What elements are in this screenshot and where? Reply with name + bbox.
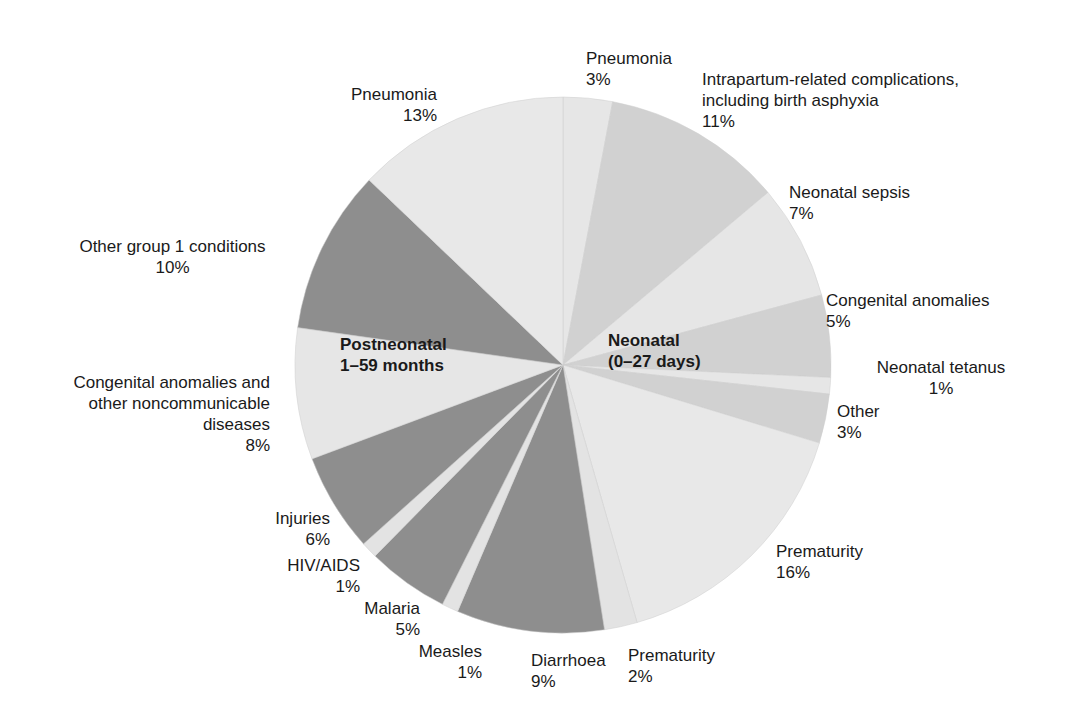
slice-label-line: Congenital anomalies and [20, 372, 270, 393]
slice-label-line: 16% [776, 562, 863, 583]
slice-label-line: Neonatal sepsis [789, 182, 910, 203]
group-label-postneonatal: Postneonatal 1–59 months [340, 334, 447, 376]
slice-label-line: 3% [837, 422, 880, 443]
slice-label-line: 3% [586, 69, 672, 90]
slice-label-line: 5% [826, 311, 990, 332]
slice-label-line: Intrapartum-related complications, [702, 69, 959, 90]
slice-label-line: 10% [60, 257, 285, 278]
slice-label-line: Injuries [210, 508, 330, 529]
slice-label-line: 8% [20, 435, 270, 456]
slice-label: Other group 1 conditions10% [60, 236, 285, 278]
slice-label-line: Pneumonia [586, 48, 672, 69]
group-label-line: Neonatal [608, 330, 701, 351]
slice-label: Neonatal sepsis7% [789, 182, 910, 224]
slice-label: Diarrhoea9% [531, 650, 606, 692]
slice-label-line: 11% [702, 111, 959, 132]
slice-label-line: Prematurity [776, 541, 863, 562]
slice-label-line: including birth asphyxia [702, 90, 959, 111]
slice-label-line: 2% [628, 666, 715, 687]
slice-label: Malaria5% [300, 598, 420, 640]
slice-label-line: Other group 1 conditions [60, 236, 285, 257]
slice-label-line: other noncommunicable [20, 393, 270, 414]
slice-label: Intrapartum-related complications,includ… [702, 69, 959, 132]
slice-label-line: 6% [210, 529, 330, 550]
slice-label-line: 5% [300, 619, 420, 640]
slice-label-line: 13% [300, 105, 437, 126]
slice-label-line: 1% [860, 378, 1022, 399]
slice-label-line: Measles [352, 641, 482, 662]
group-label-line: Postneonatal [340, 334, 447, 355]
slice-label-line: Prematurity [628, 645, 715, 666]
slice-label: HIV/AIDS1% [240, 555, 360, 597]
slice-label: Pneumonia3% [586, 48, 672, 90]
slice-label-line: 1% [352, 662, 482, 683]
slice-label-line: Diarrhoea [531, 650, 606, 671]
slice-label-line: Other [837, 401, 880, 422]
slice-label-line: Pneumonia [300, 84, 437, 105]
slice-label: Neonatal tetanus1% [860, 357, 1022, 399]
slice-label-line: diseases [20, 414, 270, 435]
slice-label: Injuries6% [210, 508, 330, 550]
slice-label: Pneumonia13% [300, 84, 437, 126]
slice-label-line: HIV/AIDS [240, 555, 360, 576]
slice-label-line: 7% [789, 203, 910, 224]
slice-label: Congenital anomalies andother noncommuni… [20, 372, 270, 456]
group-label-line: 1–59 months [340, 355, 447, 376]
slice-label: Prematurity16% [776, 541, 863, 583]
slice-label-line: Congenital anomalies [826, 290, 990, 311]
slice-label-line: 1% [240, 576, 360, 597]
slice-label: Measles1% [352, 641, 482, 683]
slice-label-line: Malaria [300, 598, 420, 619]
group-label-neonatal: Neonatal (0–27 days) [608, 330, 701, 372]
group-label-line: (0–27 days) [608, 351, 701, 372]
slice-label: Other3% [837, 401, 880, 443]
slice-label-line: Neonatal tetanus [860, 357, 1022, 378]
slice-label: Congenital anomalies5% [826, 290, 990, 332]
slice-label: Prematurity2% [628, 645, 715, 687]
slice-label-line: 9% [531, 671, 606, 692]
